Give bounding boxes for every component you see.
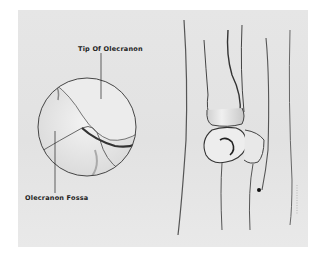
elbow-illustration	[0, 0, 324, 260]
elbow-bones	[178, 20, 297, 235]
label-tip-of-olecranon: Tip Of Olecranon	[78, 45, 143, 53]
label-olecranon-fossa: Olecranon Fossa	[25, 194, 88, 202]
magnified-inset	[35, 70, 140, 176]
marker-dot	[257, 188, 261, 192]
